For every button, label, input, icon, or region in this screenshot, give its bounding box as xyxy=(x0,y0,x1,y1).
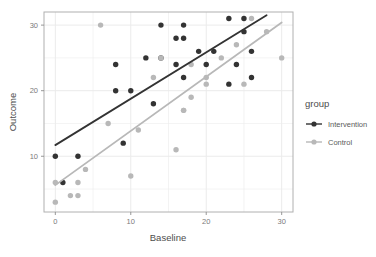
data-point xyxy=(136,127,141,132)
y-tick-label: 20 xyxy=(30,86,38,95)
data-point xyxy=(181,75,186,80)
data-point xyxy=(113,62,118,67)
data-point xyxy=(105,121,110,126)
data-point xyxy=(226,16,231,21)
data-point xyxy=(204,81,209,86)
data-point xyxy=(279,55,284,60)
data-point xyxy=(241,16,246,21)
y-tick-label: 10 xyxy=(30,152,38,161)
y-axis-title: Outcome xyxy=(7,93,18,132)
data-point xyxy=(219,55,224,60)
data-point xyxy=(143,55,148,60)
y-tick-label: 30 xyxy=(30,21,38,30)
data-point xyxy=(173,147,178,152)
legend-label-control: Control xyxy=(328,138,353,147)
data-point xyxy=(204,62,209,67)
data-point xyxy=(128,88,133,93)
data-point xyxy=(234,42,239,47)
data-point xyxy=(68,193,73,198)
data-point xyxy=(158,55,163,60)
data-point xyxy=(151,75,156,80)
data-point xyxy=(188,95,193,100)
data-point xyxy=(181,108,186,113)
legend-key-point-control xyxy=(311,139,316,144)
x-tick-label: 30 xyxy=(278,217,286,226)
data-point xyxy=(249,49,254,54)
data-point xyxy=(173,62,178,67)
data-point xyxy=(75,193,80,198)
data-point xyxy=(75,154,80,159)
data-point xyxy=(181,36,186,41)
data-point xyxy=(249,16,254,21)
data-point xyxy=(75,180,80,185)
data-point xyxy=(196,49,201,54)
data-point xyxy=(226,81,231,86)
scatter-plot: 0102030 102030 Baseline Outcome group In… xyxy=(0,0,376,257)
data-point xyxy=(98,22,103,27)
data-point xyxy=(53,199,58,204)
data-point xyxy=(249,75,254,80)
data-point xyxy=(128,173,133,178)
legend-key-point-intervention xyxy=(311,121,316,126)
data-point xyxy=(83,167,88,172)
data-point xyxy=(121,140,126,145)
x-tick-label: 10 xyxy=(127,217,135,226)
plot-panel xyxy=(44,12,293,212)
data-point xyxy=(241,81,246,86)
legend-label-intervention: Intervention xyxy=(328,120,367,129)
data-point xyxy=(181,22,186,27)
data-point xyxy=(234,62,239,67)
data-point xyxy=(113,88,118,93)
x-tick-label: 0 xyxy=(53,217,57,226)
data-point xyxy=(151,101,156,106)
data-point xyxy=(53,154,58,159)
chart-figure: 0102030 102030 Baseline Outcome group In… xyxy=(0,0,376,257)
data-point xyxy=(173,36,178,41)
x-tick-label: 20 xyxy=(202,217,210,226)
x-axis-title: Baseline xyxy=(150,232,186,243)
legend-title: group xyxy=(305,98,329,109)
data-point xyxy=(158,22,163,27)
